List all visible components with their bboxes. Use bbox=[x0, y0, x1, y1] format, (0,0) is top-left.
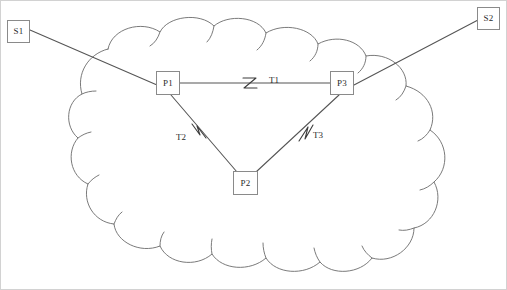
link-tick-markers bbox=[192, 78, 313, 141]
diagram-links bbox=[30, 20, 478, 172]
tick-t3 bbox=[299, 125, 313, 141]
link-label-t2: T2 bbox=[176, 133, 186, 142]
link-label-t3: T3 bbox=[313, 131, 323, 140]
network-diagram-svg bbox=[0, 0, 507, 290]
image-border bbox=[1, 1, 507, 290]
node-p2[interactable]: P2 bbox=[233, 171, 258, 195]
node-p3-label: P3 bbox=[337, 79, 347, 88]
network-cloud-outline bbox=[69, 17, 445, 271]
tick-t2 bbox=[192, 124, 206, 138]
node-s2-label: S2 bbox=[484, 14, 494, 23]
diagram-canvas: S1 S2 P1 P3 P2 T1 T2 T3 bbox=[0, 0, 507, 290]
node-s1[interactable]: S1 bbox=[7, 20, 30, 43]
node-p1-label: P1 bbox=[163, 79, 173, 88]
link-p3-p2 bbox=[256, 95, 339, 172]
node-p2-label: P2 bbox=[241, 179, 251, 188]
link-p3-s2 bbox=[354, 20, 478, 85]
node-p3[interactable]: P3 bbox=[330, 71, 354, 95]
link-label-t1: T1 bbox=[269, 76, 279, 85]
node-s2[interactable]: S2 bbox=[477, 7, 500, 30]
node-s1-label: S1 bbox=[14, 27, 24, 36]
link-s1-p1 bbox=[30, 30, 157, 85]
node-p1[interactable]: P1 bbox=[156, 71, 180, 95]
